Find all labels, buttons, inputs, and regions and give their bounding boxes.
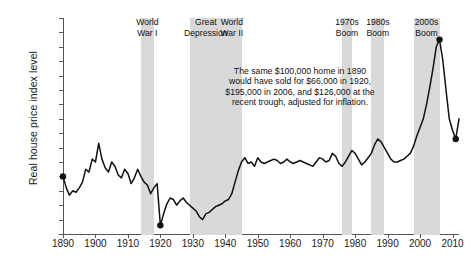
series-layer	[0, 0, 473, 277]
series-marker-2006	[436, 36, 442, 42]
series-marker-1890	[60, 173, 66, 179]
house-price-line	[63, 40, 459, 226]
series-marker-2011	[453, 136, 459, 142]
real-house-price-chart: Real house price index level World War I…	[0, 0, 473, 277]
series-marker-1920	[157, 222, 163, 228]
series-markers	[60, 36, 459, 228]
